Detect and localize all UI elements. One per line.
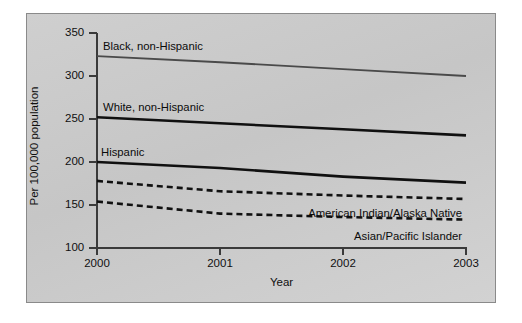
y-tick-150 bbox=[89, 204, 97, 206]
y-tick-300 bbox=[89, 75, 97, 77]
y-tick-200 bbox=[89, 161, 97, 163]
y-tick-label-350: 350 bbox=[36, 26, 84, 38]
series-line-1 bbox=[97, 117, 466, 135]
x-tick-label-2001: 2001 bbox=[190, 257, 250, 269]
x-tick-label-2002: 2002 bbox=[313, 257, 373, 269]
x-tick-2001 bbox=[219, 248, 221, 255]
series-label-black-non-hispanic: Black, non-Hispanic bbox=[103, 40, 203, 52]
y-tick-label-200: 200 bbox=[36, 155, 84, 167]
series-line-0 bbox=[97, 56, 466, 76]
x-tick-label-2000: 2000 bbox=[67, 257, 127, 269]
y-tick-350 bbox=[89, 32, 97, 34]
x-tick-2003 bbox=[465, 248, 467, 255]
series-label-asian-pacific-islander: Asian/Pacific Islander bbox=[0, 230, 462, 242]
y-tick-label-100: 100 bbox=[36, 241, 84, 253]
series-line-3 bbox=[97, 181, 466, 199]
x-axis-title: Year bbox=[96, 276, 467, 288]
x-tick-label-2003: 2003 bbox=[436, 257, 496, 269]
plot-area: 100150200250300350 2000200120022003 Blac… bbox=[0, 0, 522, 323]
x-tick-2000 bbox=[96, 248, 98, 255]
series-label-american-indian-alaska-native: American Indian/Alaska Native bbox=[0, 207, 462, 219]
y-tick-250 bbox=[89, 118, 97, 120]
series-label-hispanic: Hispanic bbox=[101, 146, 144, 158]
y-tick-label-250: 250 bbox=[36, 112, 84, 124]
series-label-white-non-hispanic: White, non-Hispanic bbox=[103, 101, 204, 113]
chart-figure: 100150200250300350 2000200120022003 Blac… bbox=[0, 0, 522, 323]
y-axis-title: Per 100,000 population bbox=[28, 66, 40, 226]
x-tick-2002 bbox=[342, 248, 344, 255]
series-line-2 bbox=[97, 162, 466, 183]
y-tick-label-300: 300 bbox=[36, 69, 84, 81]
